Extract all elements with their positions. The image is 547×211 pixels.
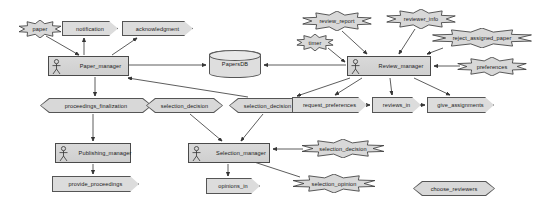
node-paper_manager[interactable]: Paper_manager	[48, 56, 129, 76]
burst-outline	[385, 9, 457, 29]
edge-review-report-to-review-manager	[342, 31, 367, 54]
node-label-provide_proceedings: provide_proceedings	[53, 177, 147, 191]
hex-inner	[41, 99, 151, 112]
node-reviewer_info[interactable]: reviewer_info	[385, 9, 457, 29]
edge-selection-decision-1-to-selection-manager	[190, 114, 222, 141]
burst-outline	[296, 34, 334, 51]
edge-paper-manager-to-acknowledgment	[112, 38, 137, 55]
node-reject_assigned_paper[interactable]: reject_assigned_paper	[430, 28, 534, 48]
burst-outline	[291, 174, 377, 193]
node-opinions_in[interactable]: opinions_in	[206, 178, 260, 194]
node-selection_decision_1[interactable]: selection_decision	[146, 98, 223, 113]
node-acknowledgment[interactable]: acknowledgment	[122, 21, 193, 36]
node-publishing_manager[interactable]: Publishing_manager	[55, 143, 131, 163]
node-notification[interactable]: notification	[62, 21, 118, 36]
edge-review-manager-to-selection-decision-2	[297, 78, 350, 96]
burst-outline	[430, 28, 534, 48]
edge-review-manager-to-request-preferences	[335, 78, 362, 95]
edge-selection-decision-2-to-paper-manager	[128, 78, 248, 97]
node-reviews_in[interactable]: reviews_in	[372, 97, 421, 113]
node-selection_decision_3[interactable]: selection_decision	[300, 139, 386, 158]
actor-icon	[191, 146, 202, 162]
node-selection_manager[interactable]: Selection_manager	[188, 143, 270, 163]
node-review_manager[interactable]: Review_manager	[347, 56, 431, 76]
node-label-selection_manager: Selection_manager	[189, 144, 281, 162]
burst-outline	[18, 20, 62, 38]
node-label-review_manager: Review_manager	[348, 57, 442, 75]
actor-icon	[51, 59, 62, 75]
node-papersdb[interactable]: PapersDB	[209, 50, 261, 78]
edge-reviewer-info-to-review-manager	[399, 29, 415, 54]
node-provide_proceedings[interactable]: provide_proceedings	[52, 176, 139, 192]
node-timer[interactable]: timer	[296, 34, 334, 51]
node-label-paper_manager: Paper_manager	[49, 57, 140, 75]
edge-review-manager-to-give-assignments	[414, 78, 450, 95]
edge-selection-decision-2-to-selection-manager	[241, 114, 263, 141]
datastore-cap	[209, 50, 261, 61]
node-give_assignments[interactable]: give_assignments	[427, 97, 494, 113]
hex-inner	[414, 182, 494, 195]
node-selection_opinion[interactable]: selection_opinion	[291, 174, 377, 193]
actor-icon	[58, 146, 69, 162]
node-paper[interactable]: paper	[18, 20, 62, 38]
diagram-canvas: papernotificationacknowledgmentPaper_man…	[0, 0, 547, 211]
node-review_report[interactable]: review_report	[301, 11, 373, 31]
node-choose_reviewers[interactable]: choose_reviewers	[413, 181, 495, 196]
node-preferences[interactable]: preferences	[456, 57, 528, 76]
node-request_preferences[interactable]: request_preferences	[292, 97, 367, 113]
node-proceedings_finalization[interactable]: proceedings_finalization	[40, 98, 152, 113]
burst-outline	[301, 11, 373, 31]
burst-outline	[300, 139, 386, 158]
edge-reject-assigned-paper-to-review-manager	[427, 48, 443, 54]
hex-inner	[147, 99, 222, 112]
edge-paper-to-paper-manager	[46, 36, 79, 55]
edge-review-manager-to-reviews-in	[390, 78, 392, 95]
burst-outline	[456, 57, 528, 76]
actor-icon	[350, 59, 361, 75]
